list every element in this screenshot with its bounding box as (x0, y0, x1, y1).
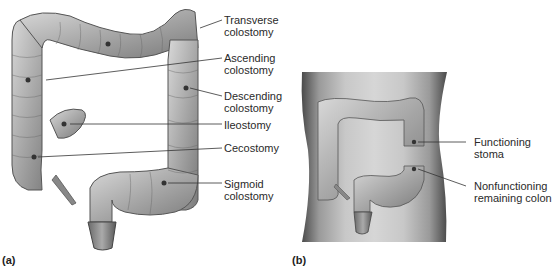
label-sigmoid-colostomy: Sigmoid colostomy (224, 178, 274, 202)
label-cecostomy: Cecostomy (224, 142, 279, 154)
panel-a-colon (12, 9, 222, 250)
panel-b-torso (302, 72, 466, 242)
panel-letter-a: (a) (2, 254, 15, 266)
label-ileostomy: Ileostomy (224, 119, 271, 131)
colon-illustration (0, 0, 556, 269)
label-functioning-stoma: Functioning stoma (474, 136, 531, 160)
label-ascending-colostomy: Ascending colostomy (224, 52, 275, 76)
panel-letter-b: (b) (292, 254, 306, 266)
label-transverse-colostomy: Transverse colostomy (224, 14, 279, 38)
label-nonfunctioning-remaining-colon: Nonfunctioning remaining colon (474, 180, 552, 204)
label-descending-colostomy: Descending colostomy (224, 90, 282, 114)
